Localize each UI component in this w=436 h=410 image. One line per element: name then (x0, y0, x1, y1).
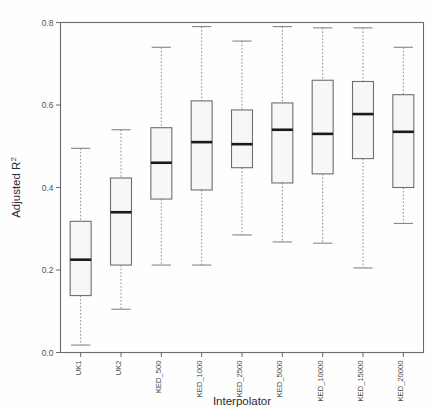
box-series (70, 27, 414, 345)
y-tick-label: 0.8 (42, 18, 54, 28)
y-tick-label: 0.4 (42, 183, 54, 193)
x-tick-label: KED_500 (154, 361, 163, 394)
chart-container: 0.00.20.40.60.8 UK1UK2KED_500KED_1000KED… (0, 0, 436, 410)
y-tick-label: 0.2 (42, 265, 54, 275)
box-rect (232, 110, 253, 168)
y-tick-label: 0.0 (42, 348, 54, 358)
x-tick-label: UK2 (114, 361, 123, 376)
box-rect (393, 95, 414, 188)
axis-titles: InterpolatorAdjusted R2 (9, 157, 271, 407)
box-rect (191, 101, 212, 190)
x-tick-label: KED_20000 (396, 361, 405, 402)
x-tick-label: KED_1000 (195, 361, 204, 398)
y-tick-label: 0.6 (42, 100, 54, 110)
x-tick-label: KED_5000 (275, 361, 284, 398)
box-rect (272, 103, 293, 183)
y-axis-title: Adjusted R2 (9, 157, 22, 218)
x-tick-label: UK1 (74, 361, 83, 376)
y-axis-ticks: 0.00.20.40.60.8 (42, 18, 61, 358)
box-rect (111, 178, 132, 265)
x-tick-label: KED_15000 (356, 361, 365, 402)
box-rect (353, 81, 374, 158)
boxplot-figure: 0.00.20.40.60.8 UK1UK2KED_500KED_1000KED… (0, 0, 436, 410)
box-rect (312, 80, 333, 174)
x-axis-title: Interpolator (213, 395, 271, 407)
x-tick-label: KED_10000 (316, 361, 325, 402)
x-tick-label: KED_2500 (235, 361, 244, 398)
